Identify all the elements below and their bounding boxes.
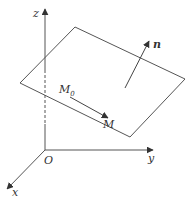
origin-label: O — [44, 154, 53, 167]
point-m0-label: M0 — [58, 83, 75, 98]
vector-m0-m — [70, 97, 108, 118]
normal-n-label: n — [153, 38, 161, 51]
y-axis-label: y — [147, 152, 155, 165]
z-axis-label: z — [32, 7, 39, 20]
x-axis — [7, 150, 45, 189]
point-m-label: M — [102, 118, 115, 131]
diagram-svg: z y x O M0 M n — [0, 0, 189, 198]
normal-vector-n — [125, 41, 149, 88]
x-axis-label: x — [12, 186, 19, 198]
plane-normal-diagram: z y x O M0 M n — [0, 0, 189, 198]
